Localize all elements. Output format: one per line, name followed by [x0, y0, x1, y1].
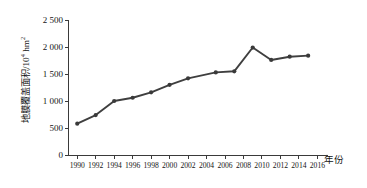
line-chart: 地膜覆盖面积/104 hm2 年份 05001 0001 5002 0002 5… — [0, 0, 367, 188]
data-point — [288, 55, 292, 59]
data-point — [306, 54, 310, 58]
data-point — [112, 99, 116, 103]
data-point — [94, 113, 98, 117]
axis-lines — [68, 20, 328, 155]
data-point — [232, 69, 236, 73]
data-point — [214, 70, 218, 74]
data-series — [75, 45, 310, 125]
axes — [68, 20, 328, 155]
series-markers — [75, 45, 310, 125]
y-axis-ticks — [65, 20, 69, 155]
plot-area — [0, 0, 367, 188]
series-line — [77, 48, 308, 124]
data-point — [149, 90, 153, 94]
x-axis-ticks — [77, 155, 317, 159]
data-point — [168, 83, 172, 87]
data-point — [269, 58, 273, 62]
data-point — [251, 45, 255, 49]
data-point — [75, 122, 79, 126]
data-point — [131, 96, 135, 100]
data-point — [186, 76, 190, 80]
